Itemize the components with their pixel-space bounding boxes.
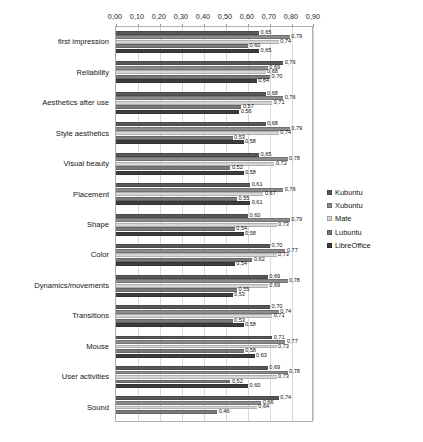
bar-group: 0,760,690,680,700,64	[116, 57, 312, 87]
bar-libreoffice	[116, 201, 250, 205]
legend-item-xubuntu[interactable]: Xubuntu	[327, 199, 419, 212]
bar-item: 0,57	[116, 105, 312, 109]
bar-item: 0,69	[116, 275, 312, 279]
bar-item: 0,58	[116, 349, 312, 353]
bar-kubuntu	[116, 153, 259, 157]
legend-item-mate[interactable]: Mate	[327, 212, 419, 225]
bar-item: 0,58	[116, 323, 312, 327]
bar-group: 0,700,740,710,530,58	[116, 301, 312, 331]
bar-item: 0,46	[116, 410, 312, 414]
bar-group: 0,700,770,730,620,54	[116, 240, 312, 270]
bar-mate	[116, 131, 279, 135]
x-tick-label: 0,90	[306, 12, 320, 21]
bar-lubuntu	[116, 136, 233, 140]
bar-value-label: 0,56	[239, 109, 251, 115]
bar-item: 0,65	[116, 153, 312, 157]
legend-item-kubuntu[interactable]: Kubuntu	[327, 186, 419, 199]
bar-item: 0,78	[116, 279, 312, 283]
bar-xubuntu	[116, 401, 261, 405]
bar-mate	[116, 223, 277, 227]
category-label: Visual beauty	[64, 159, 109, 168]
bar-value-label: 0,54	[235, 261, 247, 267]
bar-kubuntu	[116, 366, 268, 370]
bar-item: 0,71	[116, 336, 312, 340]
bar-group: 0,610,760,670,550,61	[116, 179, 312, 209]
bar-value-label: 0,58	[244, 139, 256, 145]
bar-item: 0,69	[116, 366, 312, 370]
bar-value-label: 0,53	[233, 292, 245, 298]
bar-group: 0,740,660,640,46	[116, 393, 312, 423]
bar-xubuntu	[116, 66, 268, 70]
bar-item: 0,58	[116, 140, 312, 144]
category-label: Mouse	[86, 341, 109, 350]
bar-xubuntu	[116, 157, 288, 161]
bar-kubuntu	[116, 92, 266, 96]
chart-legend: KubuntuXubuntuMateLubuntuLibreOffice	[327, 186, 419, 252]
legend-label: Lubuntu	[335, 228, 362, 237]
bar-kubuntu	[116, 275, 268, 279]
bar-item: 0,63	[116, 354, 312, 358]
category-label: Transitions	[72, 311, 109, 320]
category-label: Aesthetics after use	[42, 98, 109, 107]
bar-item: 0,55	[116, 288, 312, 292]
bar-item: 0,53	[116, 293, 312, 297]
bar-value-label: 0,60	[248, 383, 260, 389]
bar-item: 0,66	[116, 401, 312, 405]
bar-lubuntu	[116, 349, 244, 353]
bar-item: 0,64	[116, 406, 312, 410]
x-tick-label: 0,60	[240, 12, 254, 21]
bar-xubuntu	[116, 35, 290, 39]
bar-lubuntu	[116, 166, 230, 170]
bar-chart: 0,000,100,200,300,400,500,600,700,800,90…	[0, 0, 423, 442]
bar-lubuntu	[116, 227, 235, 231]
bar-kubuntu	[116, 214, 248, 218]
bar-lubuntu	[116, 75, 270, 79]
bar-lubuntu	[116, 105, 241, 109]
bar-item: 0,69	[116, 284, 312, 288]
bar-lubuntu	[116, 380, 230, 384]
bar-item: 0,58	[116, 232, 312, 236]
bar-libreoffice	[116, 262, 235, 266]
x-tick-label: 0,50	[218, 12, 232, 21]
bar-item: 0,68	[116, 70, 312, 74]
bar-item: 0,61	[116, 201, 312, 205]
category-label: Reliability	[77, 67, 110, 76]
bar-libreoffice	[116, 232, 244, 236]
bar-libreoffice	[116, 384, 248, 388]
bar-kubuntu	[116, 396, 279, 400]
gridline	[313, 27, 314, 421]
bar-item: 0,72	[116, 162, 312, 166]
bar-item: 0,60	[116, 214, 312, 218]
category-label: Sound	[87, 402, 109, 411]
category-label: Style aesthetics	[56, 128, 109, 137]
bar-item: 0,74	[116, 40, 312, 44]
category-label: first impression	[58, 37, 109, 46]
bar-kubuntu	[116, 244, 270, 248]
bar-item: 0,70	[116, 75, 312, 79]
bar-lubuntu	[116, 319, 233, 323]
bar-mate	[116, 375, 277, 379]
bar-value-label: 0,61	[250, 200, 262, 206]
legend-item-lubuntu[interactable]: Lubuntu	[327, 226, 419, 239]
bar-groups: 0,650,790,740,600,650,760,690,680,700,64…	[116, 27, 312, 421]
bar-item: 0,60	[116, 44, 312, 48]
bar-libreoffice	[116, 110, 239, 114]
x-tick-label: 0,80	[284, 12, 298, 21]
legend-item-libreoffice[interactable]: LibreOffice	[327, 239, 419, 252]
bar-mate	[116, 70, 266, 74]
bar-mate	[116, 406, 257, 410]
x-tick-label: 0,70	[262, 12, 276, 21]
bar-lubuntu	[116, 44, 248, 48]
bar-kubuntu	[116, 122, 266, 126]
x-tick-label: 0,20	[152, 12, 166, 21]
bar-item: 0,62	[116, 258, 312, 262]
bar-xubuntu	[116, 188, 283, 192]
bar-xubuntu	[116, 279, 288, 283]
bar-value-label: 0,63	[255, 353, 267, 359]
legend-swatch-icon	[327, 190, 332, 195]
legend-swatch-icon	[327, 203, 332, 208]
bar-lubuntu	[116, 410, 217, 414]
bar-group: 0,690,780,690,550,53	[116, 271, 312, 301]
legend-swatch-icon	[327, 216, 332, 221]
bar-kubuntu	[116, 61, 283, 65]
